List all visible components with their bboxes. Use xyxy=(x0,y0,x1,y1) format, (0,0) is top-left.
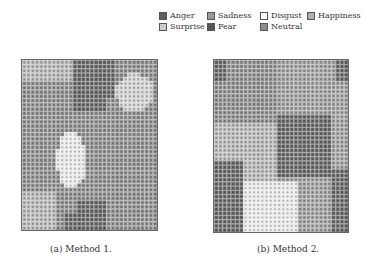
legend-item-surprise: Surprise xyxy=(159,22,205,31)
caption-method-2: (b) Method 2. xyxy=(257,244,319,254)
legend-item-anger: Anger xyxy=(159,11,195,20)
legend-item-happiness: Happiness xyxy=(307,11,361,20)
legend-item-fear: Fear xyxy=(207,22,236,31)
legend-label: Surprise xyxy=(170,22,205,31)
anger-swatch-icon xyxy=(159,12,167,20)
fear-swatch-icon xyxy=(207,23,215,31)
legend-label: Fear xyxy=(218,22,236,31)
neutral-swatch-icon xyxy=(260,23,268,31)
happiness-swatch-icon xyxy=(307,12,315,20)
som-map-method-2 xyxy=(213,59,349,233)
legend-item-sadness: Sadness xyxy=(207,11,251,20)
legend-item-neutral: Neutral xyxy=(260,22,302,31)
sadness-swatch-icon xyxy=(207,12,215,20)
legend-label: Happiness xyxy=(318,11,361,20)
legend-label: Disgust xyxy=(271,11,302,20)
legend-item-disgust: Disgust xyxy=(260,11,302,20)
disgust-swatch-icon xyxy=(260,12,268,20)
legend-label: Neutral xyxy=(271,22,302,31)
som-map-method-1 xyxy=(21,59,158,231)
legend-label: Anger xyxy=(170,11,195,20)
surprise-swatch-icon xyxy=(159,23,167,31)
caption-method-1: (a) Method 1. xyxy=(50,244,112,254)
legend-label: Sadness xyxy=(218,11,251,20)
